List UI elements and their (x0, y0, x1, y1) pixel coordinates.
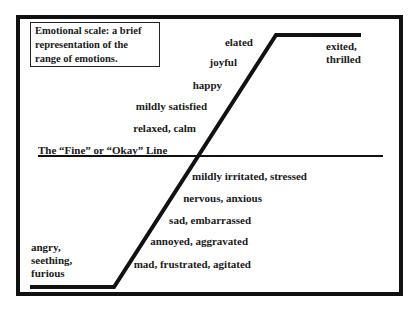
bottom-plateau-line1: angry, (31, 241, 72, 254)
emotion-label-relaxed-calm: relaxed, calm (133, 122, 196, 135)
emotion-label-elated: elated (225, 36, 253, 49)
emotion-label-sad-embarrassed: sad, embarrassed (169, 214, 251, 227)
emotion-label-annoyed-aggravated: annoyed, aggravated (150, 235, 248, 248)
bottom-plateau-line2: seething, (31, 254, 72, 267)
top-plateau-line1: exited, (326, 40, 361, 53)
emotion-label-mildly-satisfied: mildly satisfied (136, 100, 207, 113)
emotion-label-nervous-anxious: nervous, anxious (183, 192, 262, 205)
title-box: Emotional scale: a brief representation … (30, 22, 160, 67)
emotion-label-mad-frustrated: mad, frustrated, agitated (134, 258, 251, 271)
top-plateau-line2: thrilled (326, 53, 361, 66)
fine-line-label: The “Fine” or “Okay” Line (38, 144, 167, 156)
emotion-label-mildly-irritated: mildly irritated, stressed (192, 170, 307, 183)
emotion-label-joyful: joyful (210, 56, 238, 69)
bottom-plateau-line3: furious (31, 267, 72, 280)
emotion-scale-curve (30, 35, 361, 287)
emotion-label-excited-thrilled: exited, thrilled (326, 40, 361, 66)
emotion-label-happy: happy (193, 79, 222, 92)
emotion-label-angry-seething-furious: angry, seething, furious (31, 241, 72, 280)
